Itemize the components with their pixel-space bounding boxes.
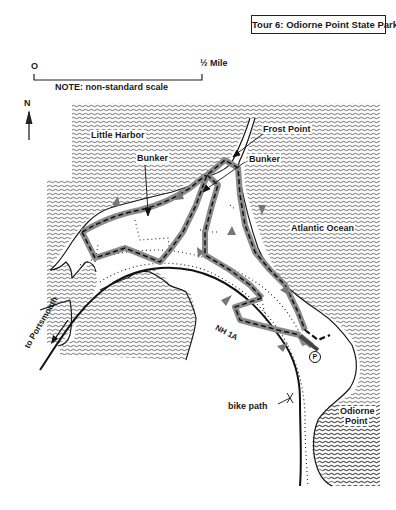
north-arrow-icon xyxy=(26,110,33,140)
label-parking: P xyxy=(313,352,318,362)
label-bunker-right: Bunker xyxy=(248,154,281,164)
label-bunker-left: Bunker xyxy=(136,153,169,163)
scale-note: NOTE: non-standard scale xyxy=(55,82,168,92)
label-little-harbor: Little Harbor xyxy=(90,130,146,140)
label-frost-point: Frost Point xyxy=(262,124,312,134)
label-odiorne-line2: Point xyxy=(344,416,369,426)
north-label: N xyxy=(24,98,31,108)
label-atlantic-ocean: Atlantic Ocean xyxy=(290,223,355,233)
label-bike-path: bike path xyxy=(228,401,268,411)
scale-start-label: O xyxy=(31,61,38,71)
label-odiorne-line1: Odiorne xyxy=(339,406,376,416)
scale-end-label: ½ Mile xyxy=(200,58,228,68)
scale-bar xyxy=(34,74,202,80)
map-canvas xyxy=(0,0,396,510)
